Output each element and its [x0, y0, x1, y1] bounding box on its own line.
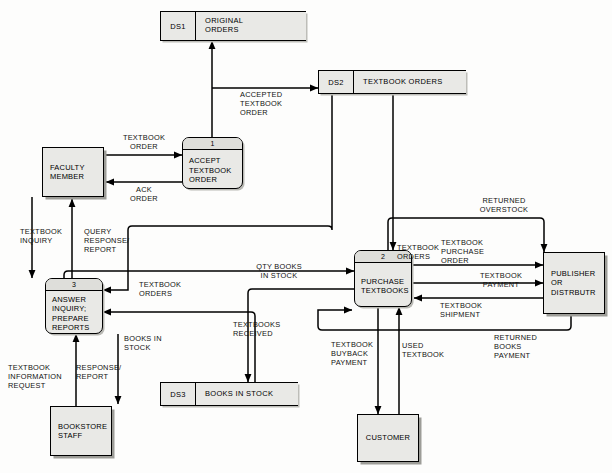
data-store-ds3-id: DS3 [161, 383, 196, 405]
data-store-ds3-label: BOOKS IN STOCK [196, 383, 298, 405]
flow-label-textbook-information-request: TEXTBOOK INFORMATION REQUEST [8, 363, 78, 390]
process-1[interactable]: 1 ACCEPT TEXTBOOK ORDER [182, 137, 243, 189]
process-2-label: PURCHASE TEXTBOOKS [355, 263, 411, 306]
process-1-label: ACCEPT TEXTBOOK ORDER [183, 150, 242, 188]
flow-label-textbook-shipment: TEXTBOOK SHIPMENT [440, 301, 510, 319]
flow-label-textbook-order: TEXTBOOK ORDER [110, 133, 178, 151]
data-store-ds3[interactable]: DS3 BOOKS IN STOCK [160, 382, 298, 406]
flow-label-returned-overstock: RETURNED OVERSTOCK [463, 196, 545, 214]
flow-label-used-textbook: USED TEXTBOOK [402, 341, 462, 359]
flow-label-returned-books-payment: RETURNED BOOKS PAYMENT [494, 333, 564, 360]
flow-label-accepted-textbook-order: ACCEPTED TEXTBOOK ORDER [240, 90, 320, 117]
flow-label-textbook-payment: TEXTBOOK PAYMENT [466, 271, 536, 289]
flow-label-textbook-inquiry: TEXTBOOK INQUIRY [20, 227, 82, 245]
entity-bookstore-staff[interactable]: BOOKSTORE STAFF [50, 406, 112, 456]
flow-label-query-response-report: QUERY RESPONSE/ REPORT [84, 227, 148, 254]
flow-label-books-in-stock: BOOKS IN STOCK [124, 334, 184, 352]
flow-label-textbook-orders-ds2-p3: TEXTBOOK ORDERS [139, 280, 201, 298]
data-store-ds2[interactable]: DS2 TEXTBOOK ORDERS [318, 70, 466, 94]
process-3[interactable]: 3 ANSWER INQUIRY; PREPARE REPORTS [45, 278, 103, 334]
flow-label-textbooks-received: TEXTBOOKS RECEIVED [233, 320, 305, 338]
data-store-ds2-id: DS2 [319, 71, 354, 93]
entity-faculty-member[interactable]: FACULTY MEMBER [42, 147, 104, 197]
dfd-canvas: DS1 ORIGINAL ORDERS DS2 TEXTBOOK ORDERS … [0, 0, 612, 473]
data-store-ds1-id: DS1 [161, 12, 196, 40]
entity-customer[interactable]: CUSTOMER [357, 414, 419, 462]
process-3-number: 3 [46, 279, 102, 291]
flow-label-textbook-purchase-order: TEXTBOOK PURCHASE ORDER [441, 238, 507, 265]
entity-publisher[interactable]: PUBLISHER OR DISTRBUTR [543, 252, 605, 314]
data-store-ds1-label: ORIGINAL ORDERS [196, 12, 306, 40]
flow-label-textbook-buyback-payment: TEXTBOOK BUYBACK PAYMENT [331, 340, 393, 367]
flow-label-ack-order: ACK ORDER [118, 185, 170, 203]
flow-label-response-report: RESPONSE/ REPORT [76, 363, 140, 381]
process-1-number: 1 [183, 138, 242, 150]
data-store-ds2-label: TEXTBOOK ORDERS [354, 71, 466, 93]
flow-label-qty-books-in-stock: QTY BOOKS IN STOCK [241, 262, 317, 280]
data-store-ds1[interactable]: DS1 ORIGINAL ORDERS [160, 11, 306, 41]
process-3-label: ANSWER INQUIRY; PREPARE REPORTS [46, 291, 102, 333]
